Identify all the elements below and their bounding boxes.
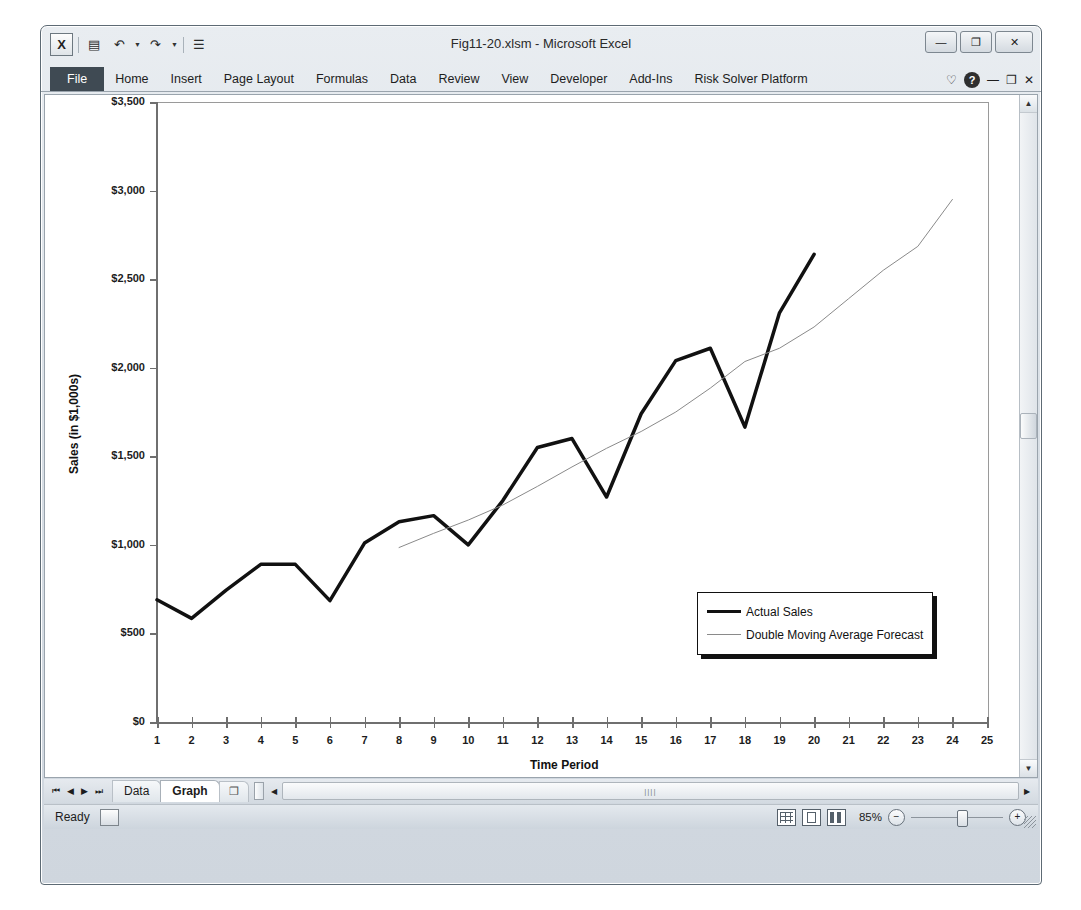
help-icon[interactable]: ? [964, 72, 980, 88]
close-window-icon[interactable]: ✕ [1024, 73, 1034, 87]
vertical-scroll-thumb[interactable] [1020, 413, 1037, 439]
chart-object[interactable]: Sales (in $1,000s) Time Period $0$500$1,… [45, 95, 1019, 777]
ribbon-tab-risk-solver-platform[interactable]: Risk Solver Platform [683, 68, 818, 91]
ribbon-tab-developer[interactable]: Developer [539, 68, 618, 91]
window-title: Fig11-20.xlsm - Microsoft Excel [41, 36, 1041, 51]
worksheet-area: Sales (in $1,000s) Time Period $0$500$1,… [44, 94, 1038, 778]
scroll-right-button[interactable]: ▶ [1019, 783, 1034, 799]
sheet-tab-bar: ⏮ ◀ ▶ ⏭ Data Graph ❐ ◀ |||| ▶ [44, 779, 1038, 803]
sheet-tab-data[interactable]: Data [112, 780, 161, 802]
restore-window-icon[interactable]: ❐ [1006, 73, 1017, 87]
ribbon-options-icon[interactable]: ♡ [946, 73, 957, 87]
horizontal-scroll-thumb[interactable]: |||| [282, 782, 1019, 800]
series-line-1 [157, 254, 814, 618]
ribbon-tab-home[interactable]: Home [104, 68, 159, 91]
next-sheet-button[interactable]: ▶ [81, 786, 88, 796]
chart-legend[interactable]: Actual Sales Double Moving Average Forec… [697, 592, 933, 655]
legend-key-forecast-icon [707, 634, 741, 635]
page-break-preview-button[interactable] [827, 809, 846, 826]
legend-key-actual-sales-icon [707, 610, 741, 613]
last-sheet-button[interactable]: ⏭ [95, 786, 103, 797]
series-lines [45, 95, 1019, 777]
scroll-left-button[interactable]: ◀ [267, 783, 282, 799]
normal-view-button[interactable] [777, 809, 796, 826]
window-controls[interactable]: — ❐ ✕ [925, 31, 1033, 53]
legend-entry-forecast: Double Moving Average Forecast [707, 623, 923, 646]
ribbon-tab-review[interactable]: Review [427, 68, 490, 91]
legend-entry-actual-sales: Actual Sales [707, 600, 923, 623]
excel-window: X ▤ ↶ ▼ ↷ ▼ ☰ Fig11-20.xlsm - Microsoft … [40, 25, 1042, 885]
page-layout-view-button[interactable] [802, 809, 821, 826]
status-bar-right[interactable]: 85% − + [777, 809, 1038, 826]
scroll-down-button[interactable]: ▼ [1020, 759, 1037, 777]
first-sheet-button[interactable]: ⏮ [52, 786, 60, 797]
prev-sheet-button[interactable]: ◀ [67, 786, 74, 796]
restore-button[interactable]: ❐ [960, 31, 992, 53]
status-text: Ready [44, 810, 100, 824]
legend-label-actual-sales: Actual Sales [746, 605, 813, 619]
resize-grip[interactable] [1024, 816, 1036, 828]
zoom-level-label[interactable]: 85% [852, 811, 882, 823]
status-bar: Ready 85% − + [44, 804, 1038, 829]
ribbon-tab-add-ins[interactable]: Add-Ins [618, 68, 683, 91]
scroll-up-button[interactable]: ▲ [1020, 95, 1037, 113]
minimize-button[interactable]: — [925, 31, 957, 53]
zoom-out-button[interactable]: − [888, 809, 905, 826]
legend-label-forecast: Double Moving Average Forecast [746, 628, 923, 642]
tab-split-handle[interactable] [254, 782, 264, 800]
title-bar: X ▤ ↶ ▼ ↷ ▼ ☰ Fig11-20.xlsm - Microsoft … [41, 26, 1041, 64]
ribbon-tab-insert[interactable]: Insert [160, 68, 213, 91]
zoom-slider-thumb[interactable] [957, 810, 968, 827]
sheet-navigation-buttons[interactable]: ⏮ ◀ ▶ ⏭ [44, 786, 112, 797]
ribbon-tab-strip[interactable]: File Home Insert Page Layout Formulas Da… [41, 64, 1041, 92]
macro-record-icon[interactable] [100, 809, 119, 826]
zoom-slider[interactable] [911, 817, 1003, 818]
ribbon-tab-formulas[interactable]: Formulas [305, 68, 379, 91]
ribbon-tab-file[interactable]: File [50, 67, 104, 91]
ribbon-tab-data[interactable]: Data [379, 68, 427, 91]
sheet-tab-graph[interactable]: Graph [160, 780, 219, 802]
close-button[interactable]: ✕ [995, 31, 1033, 53]
horizontal-scrollbar[interactable]: ◀ |||| ▶ [267, 783, 1034, 800]
vertical-scrollbar[interactable]: ▲ ▼ [1019, 95, 1037, 777]
insert-worksheet-icon[interactable]: ❐ [219, 781, 249, 802]
ribbon-right-controls[interactable]: ♡ ? — ❐ ✕ [946, 72, 1034, 88]
ribbon-tab-page-layout[interactable]: Page Layout [213, 68, 305, 91]
series-line-2 [399, 199, 952, 547]
minimize-ribbon-icon[interactable]: — [987, 73, 999, 87]
ribbon-tab-view[interactable]: View [490, 68, 539, 91]
